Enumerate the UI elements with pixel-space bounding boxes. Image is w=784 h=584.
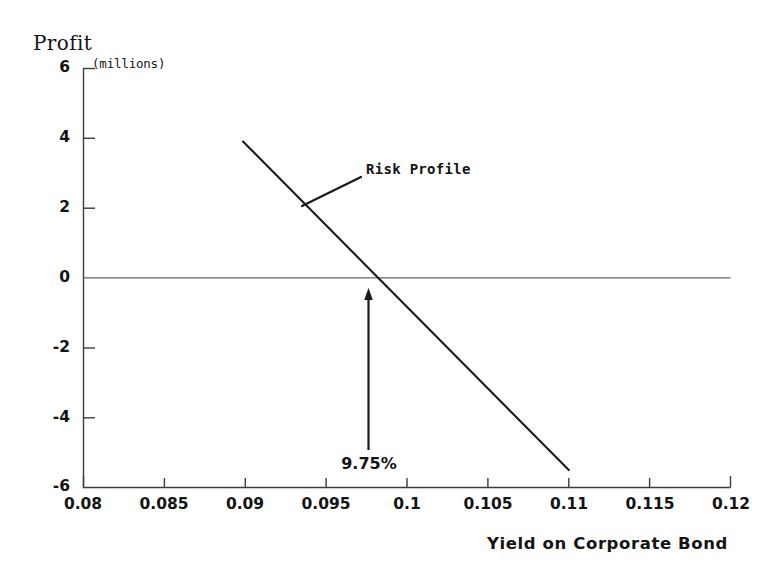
breakeven-annotation-label: 9.75% [329, 456, 409, 472]
x-axis-title: Yield on Corporate Bond [487, 536, 728, 553]
y-tick-label-minus-2: -2 [26, 340, 70, 356]
y-axis-title: Profit [33, 33, 92, 53]
x-tick-label-8: 0.12 [686, 497, 776, 513]
y-tick-label-2: 2 [26, 200, 70, 216]
x-tick-label-7: 0.115 [605, 497, 695, 513]
x-tick-label-6: 0.11 [524, 497, 614, 513]
y-tick-label-6: 6 [26, 60, 70, 76]
y-tick-label-minus-4: -4 [26, 410, 70, 426]
y-tick-label-minus-6: -6 [26, 479, 70, 495]
risk-profile-chart: Profit (millions) 6 4 2 0 -2 -4 -6 0.08 … [0, 0, 784, 584]
x-tick-label-2: 0.09 [200, 497, 290, 513]
x-tick-label-3: 0.095 [281, 497, 371, 513]
x-tick-label-4: 0.1 [362, 497, 452, 513]
y-tick-label-4: 4 [26, 130, 70, 146]
series-annotation-label: Risk Profile [366, 162, 471, 176]
x-tick-label-1: 0.085 [119, 497, 209, 513]
y-tick-label-0: 0 [26, 270, 70, 286]
x-tick-label-0: 0.08 [38, 497, 128, 513]
y-axis-unit-label: (millions) [92, 58, 165, 71]
x-tick-label-5: 0.105 [443, 497, 533, 513]
